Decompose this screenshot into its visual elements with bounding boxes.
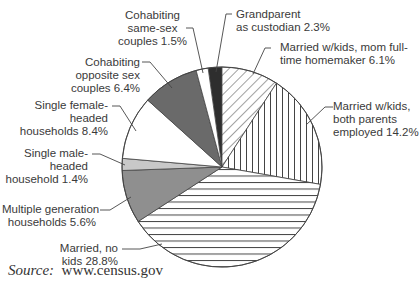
- label-grandparent: Grandparent as custodian 2.3%: [236, 8, 330, 34]
- leader-homemaker: [253, 48, 271, 74]
- label-both-parents: Married w/kids, both parents employed 14…: [333, 100, 419, 139]
- source-note: Source: www.census.gov: [8, 262, 163, 279]
- label-cohab-opposite: Cohabiting opposite sex couples 6.4%: [60, 56, 140, 95]
- leader-no-kids: [122, 244, 162, 249]
- leader-multigen: [100, 197, 131, 210]
- label-multigen: Multiple generation households 5.6%: [2, 203, 96, 229]
- label-single-female: Single female- headed households 8.4%: [4, 99, 108, 138]
- leader-same-sex: [186, 28, 203, 73]
- label-cohab-same-sex: Cohabiting same-sex couples 1.5%: [118, 9, 187, 48]
- label-single-male: Single male- headed household 1.4%: [4, 147, 88, 186]
- leader-male: [92, 154, 125, 165]
- leader-grandparent: [216, 14, 232, 72]
- label-homemaker: Married w/kids, mom full- time homemaker…: [280, 41, 408, 67]
